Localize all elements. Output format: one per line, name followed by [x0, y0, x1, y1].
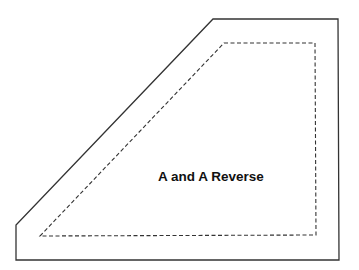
template-cutting-outline [16, 19, 339, 260]
quilt-template-diagram: A and A Reverse [0, 0, 359, 270]
template-seam-line [40, 43, 316, 236]
template-label: A and A Reverse [158, 169, 264, 184]
